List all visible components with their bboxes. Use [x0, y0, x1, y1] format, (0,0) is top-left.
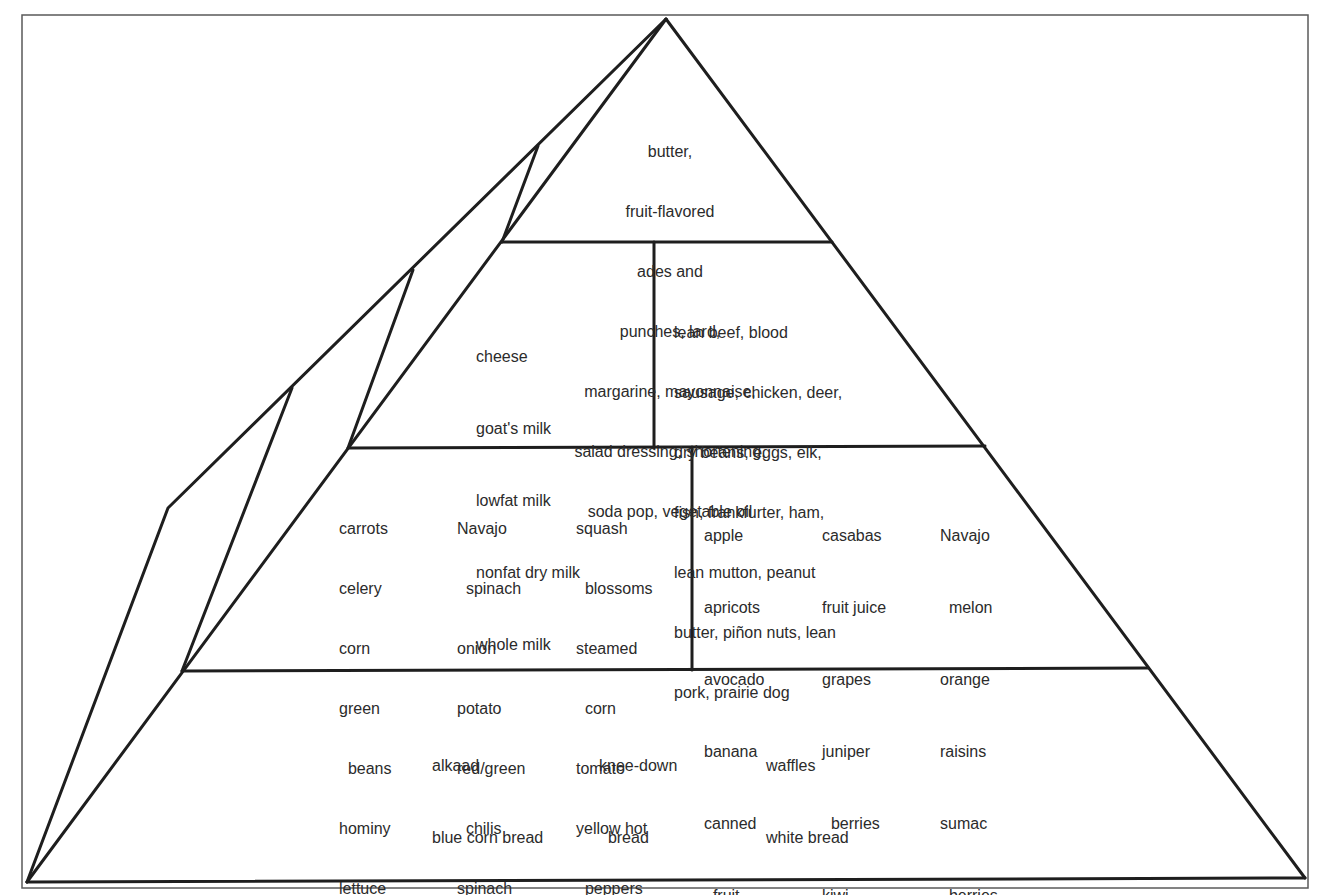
vegetable-item: corn — [339, 639, 391, 659]
vegetables-column-1: carrots celery corn green beans hominy l… — [339, 479, 391, 895]
grain-item: knee-down — [599, 754, 677, 778]
vegetable-item: lettuce — [339, 879, 391, 895]
tier-top-line: butter, — [540, 142, 800, 162]
fruits-column-3: Navajo melon orange raisins sumac berrie… — [940, 476, 1023, 895]
vegetable-item: onion — [457, 639, 526, 659]
side-facet-3 — [182, 388, 292, 671]
grain-item: bread — [599, 826, 677, 850]
meat-line: sausage, chicken, deer, — [674, 383, 842, 403]
fruit-item: avocado — [704, 668, 782, 692]
meat-line: dry beans, eggs, elk, — [674, 443, 842, 463]
fruit-item: raisins — [940, 740, 1023, 764]
milk-item: cheese — [476, 345, 580, 369]
fruit-item: casabas — [822, 524, 886, 548]
side-facet-2 — [348, 270, 413, 448]
grain-item: alkaad — [432, 754, 543, 778]
fruit-item: sumac — [940, 812, 1023, 836]
vegetable-item: green — [339, 699, 391, 719]
grain-item: blue corn bread — [432, 826, 543, 850]
meat-line: lean beef, blood — [674, 323, 842, 343]
vegetable-item: hominy — [339, 819, 391, 839]
fruit-item: Navajo — [940, 524, 1023, 548]
fruit-item: apricots — [704, 596, 782, 620]
fruit-item: orange — [940, 668, 1023, 692]
fruit-item: berries — [940, 884, 1023, 895]
grain-item: white bread — [766, 826, 849, 850]
vegetable-item: carrots — [339, 519, 391, 539]
vegetable-item: spinach — [457, 579, 526, 599]
vegetable-item: Navajo — [457, 519, 526, 539]
vegetable-item: squash — [576, 519, 652, 539]
fruit-item: fruit juice — [822, 596, 886, 620]
vegetable-item: steamed — [576, 639, 652, 659]
tier-top-line: fruit-flavored — [540, 202, 800, 222]
vegetable-item: blossoms — [576, 579, 652, 599]
grains-column-3: waffles white bread whole-grain bread — [766, 706, 849, 895]
vegetable-item: beans — [339, 759, 391, 779]
grains-column-2: knee-down bread macaroni pancakes spaghe… — [599, 706, 677, 895]
grain-item: waffles — [766, 754, 849, 778]
vegetable-item: celery — [339, 579, 391, 599]
milk-item: goat's milk — [476, 417, 580, 441]
fruit-item: apple — [704, 524, 782, 548]
grains-column-1: alkaad blue corn bread blue corn mush bl… — [432, 706, 543, 895]
fruit-item: grapes — [822, 668, 886, 692]
tier-top-line: ades and — [540, 262, 800, 282]
fruit-item: melon — [940, 596, 1023, 620]
